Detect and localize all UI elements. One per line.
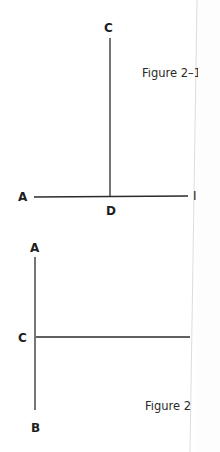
label-right-partial: I: [193, 190, 197, 202]
label-b-bottom: B: [31, 422, 40, 434]
label-d-foot: D: [106, 205, 116, 217]
label-c-top: C: [104, 22, 113, 34]
label-a-left: A: [18, 191, 27, 203]
scanned-page: C A D I Figure 2–1 A C B Figure 2: [0, 0, 220, 452]
label-c-middle: C: [18, 332, 27, 344]
figure-caption-2: Figure 2: [145, 401, 191, 413]
segment-a-line: [34, 196, 188, 197]
figure-caption-1: Figure 2–1: [142, 68, 198, 80]
label-a-top: A: [30, 242, 39, 254]
